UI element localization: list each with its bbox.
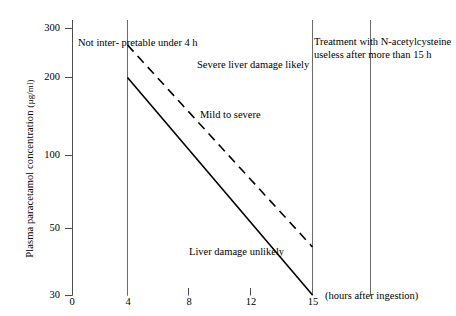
x-tick-label-4: 4 <box>108 296 148 307</box>
x-axis-title: (hours after ingestion) <box>325 290 418 301</box>
y-tick-label-100: 100 <box>26 149 60 160</box>
annotation-treatment-useless: Treatment with N-acetylcysteine useless … <box>314 35 456 62</box>
y-axis-title-main: Plasma paracetamol concentration <box>24 108 35 258</box>
annotation-mild-to-severe: Mild to severe <box>200 108 261 121</box>
upper-treatment-line-dashed <box>128 45 313 247</box>
y-axis-title-unit: (µg/ml) <box>25 79 35 107</box>
x-tick-label-8: 8 <box>169 296 209 307</box>
annotation-damage-unlikely: Liver damage unlikely <box>189 245 284 258</box>
y-tick-label-300: 300 <box>26 22 60 33</box>
x-tick-label-0: 0 <box>52 296 92 307</box>
y-tick-label-200: 200 <box>26 71 60 82</box>
y-tick-label-50: 50 <box>26 222 60 233</box>
nomogram-chart: Plasma paracetamol concentration (µg/ml)… <box>0 0 456 316</box>
annotation-not-interpretable: Not inter- pretable under 4 h <box>78 36 198 49</box>
x-tick-label-12: 12 <box>231 296 271 307</box>
annotation-severe-damage: Severe liver damage likely <box>197 58 309 71</box>
